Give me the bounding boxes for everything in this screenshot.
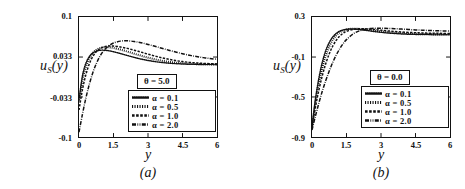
plot-panel-a: uS(y) 0.1 0.033 -0.033 -0.1 [0, 0, 232, 189]
y-tick-label-group-b: 0.3 -0.1 -0.5 -0.9 [269, 0, 309, 189]
plot-panel-b: uS(y) 0.3 -0.1 -0.5 -0.9 [233, 0, 465, 189]
x-axis-label: y [78, 147, 218, 163]
legend-label: α = 2.0 [152, 120, 179, 130]
line-style-dashed-icon [365, 107, 382, 116]
line-style-dotted-bold-icon [132, 102, 149, 111]
y-tick-label: -0.1 [292, 52, 305, 62]
line-style-dotted-bold-icon [365, 98, 382, 107]
legend-item: α = 2.0 [132, 120, 211, 129]
legend-item: α = 2.0 [365, 116, 444, 125]
line-style-dashed-icon [132, 111, 149, 120]
y-tick-label: 0.1 [61, 11, 72, 21]
line-style-dotted-fine-icon [365, 89, 382, 98]
legend-a: α = 0.1 α = 0.5 α = 1.0 α = 2.0 [128, 90, 216, 132]
y-tick-label: 0.033 [53, 51, 72, 61]
legend-label: α = 2.0 [385, 116, 412, 126]
theta-annotation-b: θ = 0.0 [370, 70, 410, 85]
y-tick-label-group-a: 0.1 0.033 -0.033 -0.1 [36, 0, 76, 189]
y-tick-label: 0.3 [294, 11, 305, 21]
y-tick-label: -0.033 [50, 93, 72, 103]
line-style-dash-dot-icon [365, 116, 382, 125]
y-tick-label: -0.5 [292, 92, 305, 102]
panel-caption-b: (b) [311, 165, 451, 181]
figure-container: uS(y) 0.1 0.033 -0.033 -0.1 [0, 0, 465, 189]
x-axis-label: y [311, 147, 451, 163]
line-style-dash-dot-icon [132, 120, 149, 129]
line-style-dotted-fine-icon [132, 93, 149, 102]
legend-b: α = 0.1 α = 0.5 α = 1.0 α = 2.0 [361, 86, 449, 128]
panel-caption-a: (a) [78, 165, 218, 181]
theta-annotation-a: θ = 5.0 [137, 74, 177, 89]
